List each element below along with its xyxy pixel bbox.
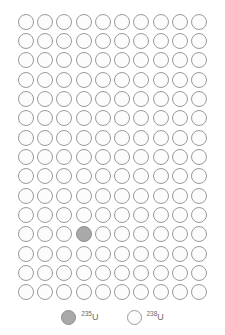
grid-cell [74,205,93,224]
dot-u238 [56,226,72,242]
grid-cell [16,51,35,70]
grid-cell [113,31,132,50]
grid-cell [16,225,35,244]
dot-u238 [191,14,207,30]
dot-u238 [153,246,169,262]
grid-cell [16,147,35,166]
dot-u238 [18,72,34,88]
grid-cell [35,205,54,224]
dot-u238 [133,284,149,300]
grid-cell [55,70,74,89]
dot-u238 [56,130,72,146]
dot-u238 [172,207,188,223]
grid-cell [132,186,151,205]
grid-cell [16,186,35,205]
dot-u238 [172,284,188,300]
grid-cell [35,70,54,89]
grid-cell [55,147,74,166]
legend-mass-number-u238: 238 [147,310,158,317]
grid-cell [16,263,35,282]
grid-cell [55,51,74,70]
grid-cell [55,12,74,31]
dot-u238 [153,188,169,204]
grid-cell [190,244,209,263]
dot-u238 [191,149,207,165]
dot-u238 [191,72,207,88]
grid-cell [113,167,132,186]
grid-cell [93,12,112,31]
dot-u238 [76,72,92,88]
dot-u238 [37,149,53,165]
legend-item-u235[interactable]: 235U [61,310,98,325]
grid-cell [35,167,54,186]
dot-u238 [114,265,130,281]
legend-item-u238[interactable]: 238U [127,310,164,325]
dot-u238 [18,52,34,68]
dot-u238 [153,110,169,126]
dot-u238 [153,14,169,30]
grid-cell [132,225,151,244]
dot-u238 [76,52,92,68]
dot-u238 [95,226,111,242]
dot-u238 [114,207,130,223]
dot-u238 [56,72,72,88]
dot-u238 [153,265,169,281]
legend-label-u235: 235U [81,313,98,322]
grid-cell [74,89,93,108]
grid-cell [151,167,170,186]
grid-cell [132,109,151,128]
dot-u238 [56,265,72,281]
grid-cell [190,167,209,186]
dot-u238 [191,52,207,68]
dot-u238 [133,110,149,126]
grid-cell [170,147,189,166]
grid-cell [16,205,35,224]
dot-u238 [153,284,169,300]
dot-u238 [76,246,92,262]
dot-u238 [133,265,149,281]
grid-cell [16,31,35,50]
grid-cell [113,109,132,128]
legend: 235U 238U [0,300,225,335]
legend-label-u238: 238U [147,313,164,322]
grid-cell [16,12,35,31]
legend-swatch-outlined-icon [127,310,142,325]
dot-u238 [191,246,207,262]
dot-u238 [18,130,34,146]
grid-cell [170,70,189,89]
grid-cell [55,109,74,128]
grid-cell [55,263,74,282]
dot-u238 [114,130,130,146]
dot-u238 [172,110,188,126]
grid-cell [190,70,209,89]
dot-u238 [133,52,149,68]
dot-u238 [153,226,169,242]
dot-u238 [133,91,149,107]
dot-u238 [76,149,92,165]
grid-cell [151,263,170,282]
dot-u238 [76,91,92,107]
dot-u238 [18,265,34,281]
dot-u238 [172,14,188,30]
dot-u238 [191,284,207,300]
grid-cell [132,244,151,263]
dot-u238 [95,188,111,204]
grid-cell [190,89,209,108]
grid-cell [55,128,74,147]
dot-u238 [114,33,130,49]
grid-cell [16,70,35,89]
dot-u235 [76,226,92,242]
dot-u238 [133,72,149,88]
grid-cell [190,147,209,166]
dot-u238 [191,265,207,281]
grid-cell [35,51,54,70]
dot-u238 [114,226,130,242]
grid-cell [151,147,170,166]
dot-u238 [153,33,169,49]
grid-cell [113,12,132,31]
dot-u238 [114,284,130,300]
dot-u238 [56,91,72,107]
dot-u238 [114,91,130,107]
dot-u238 [76,33,92,49]
dot-u238 [191,130,207,146]
